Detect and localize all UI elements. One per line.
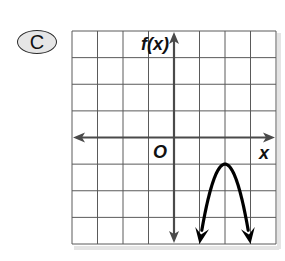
x-axis-label: x <box>258 143 270 163</box>
y-axis-label: f(x) <box>141 34 169 54</box>
graph-shadow-right <box>277 33 281 249</box>
origin-label: O <box>153 142 167 162</box>
graph-shadow-bottom <box>74 246 279 250</box>
coordinate-graph: f(x) O x <box>0 0 285 261</box>
